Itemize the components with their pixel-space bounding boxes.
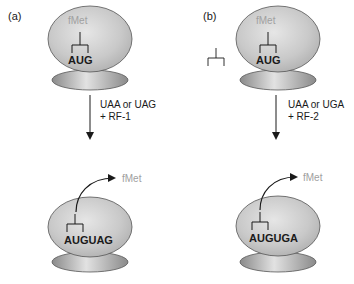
large-subunit — [48, 197, 132, 257]
sequence-label: AUGUAG — [64, 234, 113, 246]
ribosome-final-a: AUGUAG fMet — [48, 173, 142, 272]
released-fmet-label: fMet — [303, 172, 323, 183]
ribosome-final-b: AUGUGA fMet — [236, 172, 323, 272]
panel-b: (b) fMet AUG UAA or UGA + RF-2 — [203, 6, 344, 272]
stop-codons-label: UAA or UAG — [100, 99, 156, 110]
codon-label: AUG — [256, 54, 280, 66]
released-fmet-label: fMet — [122, 173, 142, 184]
small-subunit — [52, 70, 128, 90]
transition-arrow-a: UAA or UAG + RF-1 — [90, 95, 156, 138]
large-subunit — [236, 196, 320, 256]
release-factor-label: + RF-1 — [100, 111, 131, 122]
codon-label: AUG — [68, 54, 92, 66]
fmet-label: fMet — [256, 15, 276, 26]
translation-termination-diagram: (a) fMet AUG UAA or UAG + RF-1 — [0, 0, 354, 284]
panel-label-b: (b) — [203, 10, 216, 22]
panel-a: (a) fMet AUG UAA or UAG + RF-1 — [8, 6, 156, 272]
stop-codons-label: UAA or UGA — [288, 99, 344, 110]
sequence-label: AUGUGA — [249, 232, 298, 244]
release-factor-label: + RF-2 — [288, 111, 319, 122]
transition-arrow-b: UAA or UGA + RF-2 — [276, 95, 344, 138]
fmet-label: fMet — [68, 15, 88, 26]
panel-label-a: (a) — [8, 10, 21, 22]
small-subunit — [240, 70, 316, 90]
free-trna-icon — [208, 48, 224, 66]
ribosome-initial-b: fMet AUG — [236, 6, 320, 90]
ribosome-initial-a: fMet AUG — [48, 6, 132, 90]
